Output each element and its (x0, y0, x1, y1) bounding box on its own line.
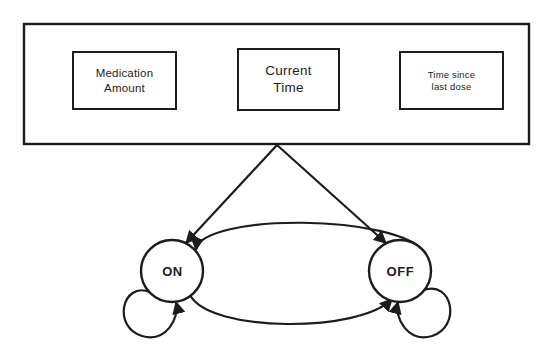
input-box-current-time (238, 49, 339, 110)
state-node-off (369, 240, 431, 302)
state-diagram: Medication Amount Current Time Time sinc… (0, 0, 552, 350)
diagram-canvas (0, 0, 552, 350)
input-box-medication-amount (73, 52, 176, 109)
state-node-on (141, 240, 203, 302)
connector-on-to-off-arc (190, 295, 392, 324)
input-box-time-since-last-dose (400, 52, 503, 109)
